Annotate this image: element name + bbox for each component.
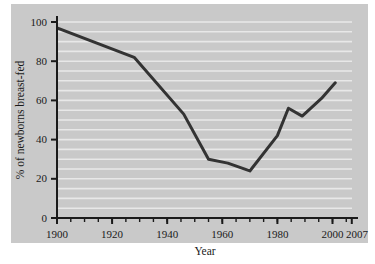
y-tick-label: 40: [36, 133, 48, 145]
y-axis-title: % of newborns breast-fed: [14, 61, 26, 180]
y-axis-tick-labels: 0 20 40 60 80 100: [31, 16, 48, 224]
y-tick-label: 100: [31, 16, 48, 28]
y-tick-label: 20: [36, 172, 48, 184]
y-tick-label: 60: [36, 94, 48, 106]
x-tick-label: 1900: [46, 228, 69, 240]
y-tick-label: 0: [42, 212, 48, 224]
x-tick-label: 1940: [156, 228, 179, 240]
x-tick-label: 1980: [266, 228, 289, 240]
line-chart: 0 20 40 60 80 100 1900 1920 1940 1960 19…: [0, 0, 375, 264]
x-tick-label: 2000: [322, 228, 345, 240]
x-axis-tick-labels: 1900 1920 1940 1960 1980 2000 2007: [46, 228, 369, 240]
x-tick-label: 1920: [101, 228, 124, 240]
y-tick-label: 80: [36, 55, 48, 67]
x-tick-label: 2007: [346, 228, 369, 240]
x-axis-title: Year: [194, 245, 215, 257]
gridlines: [57, 22, 352, 218]
x-tick-label: 1960: [211, 228, 234, 240]
chart-figure: 0 20 40 60 80 100 1900 1920 1940 1960 19…: [0, 0, 375, 264]
